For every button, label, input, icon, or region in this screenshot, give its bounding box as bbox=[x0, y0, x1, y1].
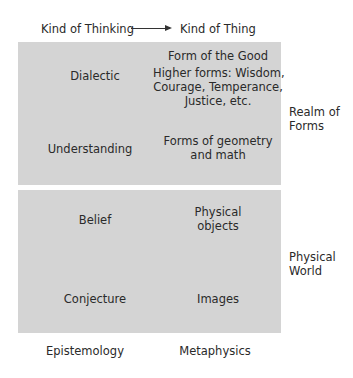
higher-forms-line3: Justice, etc. bbox=[153, 94, 283, 108]
physical-objects-line2: objects bbox=[168, 219, 268, 233]
right-arrow-icon bbox=[131, 28, 170, 29]
dialectic-label: Dialectic bbox=[60, 69, 130, 83]
header-kind-of-thinking: Kind of Thinking bbox=[41, 22, 134, 36]
physical-objects-line1: Physical bbox=[168, 205, 268, 219]
realm-of-forms-label-line2: Forms bbox=[289, 119, 324, 133]
forms-geometry-line2: and math bbox=[158, 148, 278, 162]
realm-of-forms-box: Dialectic Form of the Good Higher forms:… bbox=[18, 42, 281, 185]
metaphysics-label: Metaphysics bbox=[165, 344, 265, 358]
realm-of-forms-label-line1: Realm of bbox=[289, 105, 340, 119]
form-of-the-good: Form of the Good bbox=[163, 49, 273, 63]
physical-world-label-line2: World bbox=[289, 264, 322, 278]
header-kind-of-thing: Kind of Thing bbox=[180, 22, 256, 36]
physical-world-label-line1: Physical bbox=[289, 250, 336, 264]
belief-label: Belief bbox=[60, 213, 130, 227]
conjecture-label: Conjecture bbox=[50, 292, 140, 306]
higher-forms-line2: Courage, Temperance, bbox=[153, 80, 283, 94]
higher-forms-line1: Higher forms: Wisdom, bbox=[153, 66, 283, 80]
physical-world-box: Belief Physical objects Conjecture Image… bbox=[18, 190, 281, 333]
understanding-label: Understanding bbox=[40, 142, 140, 156]
epistemology-label: Epistemology bbox=[35, 344, 135, 358]
forms-geometry-line1: Forms of geometry bbox=[158, 134, 278, 148]
images-label: Images bbox=[168, 292, 268, 306]
